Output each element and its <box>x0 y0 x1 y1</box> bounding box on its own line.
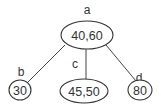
node-c-label: c <box>72 57 78 71</box>
edge-a-b <box>27 45 65 83</box>
node-c: c 45,50 <box>60 57 108 103</box>
node-b: b 30 <box>9 65 31 100</box>
node-a-label: a <box>84 3 91 17</box>
node-b-value: 30 <box>13 84 27 98</box>
node-a: a 40,60 <box>61 3 113 49</box>
node-c-value: 45,50 <box>68 85 99 99</box>
node-b-label: b <box>18 65 25 79</box>
node-a-value: 40,60 <box>71 29 102 43</box>
edge-a-d <box>106 45 136 81</box>
node-d-value: 80 <box>133 84 147 98</box>
tree-diagram: a 40,60 b 30 c 45,50 d 80 <box>0 0 161 112</box>
